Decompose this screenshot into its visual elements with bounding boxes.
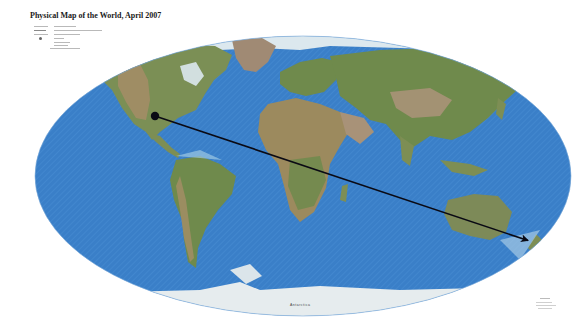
label-antarctica: Antarctica: [290, 303, 311, 307]
map-credit: [536, 298, 558, 312]
world-map: [0, 0, 583, 334]
map-body: [30, 30, 580, 330]
arrow-start-dot: [151, 112, 159, 120]
